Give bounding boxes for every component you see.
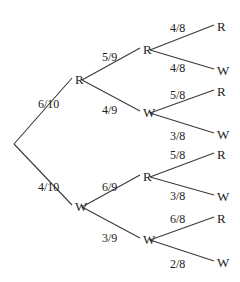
probability-label-WR: 6/9 [102, 180, 117, 194]
node-W: W [75, 199, 88, 214]
node-RRR: R [217, 19, 226, 34]
node-WR: R [143, 169, 152, 184]
probability-label-WRW: 3/8 [170, 189, 185, 203]
probability-label-WWW: 2/8 [170, 257, 185, 271]
node-RW: W [143, 105, 156, 120]
probability-label-RR: 5/9 [102, 50, 117, 64]
node-WWW: W [217, 255, 230, 270]
probability-label-W: 4/10 [38, 180, 59, 194]
probability-label-RRR: 4/8 [170, 21, 185, 35]
probability-label-WWR: 6/8 [170, 212, 185, 226]
node-RWW: W [217, 127, 230, 142]
probability-label-RWW: 3/8 [170, 129, 185, 143]
probability-label-RWR: 5/8 [170, 88, 185, 102]
node-WWR: R [217, 211, 226, 226]
node-R: R [75, 72, 84, 87]
probability-label-WW: 3/9 [102, 231, 117, 245]
tree-labels: R6/10W4/10R5/9W4/9R6/9W3/9R4/8W4/8R5/8W3… [38, 19, 230, 271]
node-RRW: W [217, 63, 230, 78]
probability-label-RW: 4/9 [102, 103, 117, 117]
probability-label-R: 6/10 [38, 97, 59, 111]
branch-root-to-R [14, 78, 72, 144]
node-WW: W [143, 232, 156, 247]
node-WRW: W [217, 189, 230, 204]
probability-label-RRW: 4/8 [170, 61, 185, 75]
probability-tree-diagram: R6/10W4/10R5/9W4/9R6/9W3/9R4/8W4/8R5/8W3… [0, 0, 240, 282]
branch-root-to-W [14, 144, 72, 205]
node-RWR: R [217, 84, 226, 99]
probability-label-WRR: 5/8 [170, 148, 185, 162]
node-WRR: R [217, 147, 226, 162]
node-RR: R [143, 42, 152, 57]
